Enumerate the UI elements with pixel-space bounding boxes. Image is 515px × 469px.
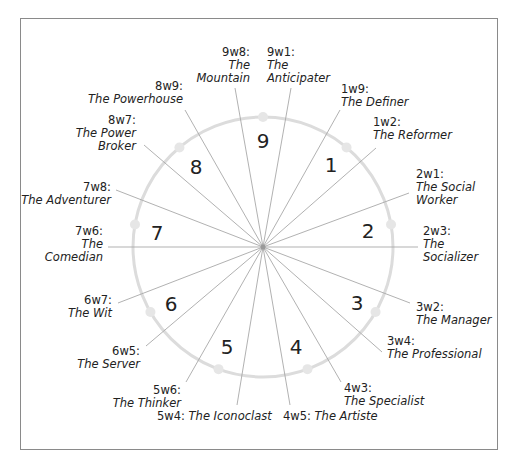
type-number-8: 8	[190, 155, 203, 179]
spoke-6w5	[146, 247, 263, 346]
wing-name: TheMountain	[196, 58, 250, 85]
wing-label-6w7: 6w7: The Wit	[68, 294, 112, 320]
wing-label-2w3: 2w3: TheSocializer	[423, 225, 478, 264]
type-dot-2	[386, 219, 396, 229]
type-number-9: 9	[257, 129, 270, 153]
wing-name: The Iconoclast	[189, 409, 272, 423]
wing-name: TheComedian	[45, 237, 103, 264]
wing-name: The Thinker	[113, 396, 181, 410]
wing-name: TheSocializer	[423, 237, 478, 264]
wing-name: The Definer	[341, 95, 409, 109]
spoke-6w7	[118, 247, 263, 303]
spoke-3w2	[263, 247, 410, 303]
type-number-4: 4	[290, 335, 303, 359]
wing-label-6w5: 6w5: The Server	[77, 345, 140, 371]
type-dot-1	[342, 142, 352, 152]
wing-label-7w8: 7w8: The Adventurer	[21, 181, 111, 207]
wing-name: The Manager	[416, 313, 491, 327]
wing-label-4w5: 4w5: The Artiste	[283, 410, 378, 423]
type-dot-8	[174, 142, 184, 152]
type-number-5: 5	[221, 335, 234, 359]
wing-label-5w6: 5w6: The Thinker	[113, 384, 181, 410]
spoke-1w2	[263, 148, 376, 247]
spoke-2w1	[263, 193, 409, 247]
wing-name: TheAnticipater	[267, 58, 330, 85]
wing-name: The Reformer	[373, 128, 452, 142]
wing-name: The Professional	[387, 347, 482, 361]
type-number-3: 3	[351, 291, 364, 315]
wing-label-8w9: 8w9: The Powerhouse	[88, 80, 183, 106]
type-dot-3	[371, 307, 381, 317]
wing-label-1w2: 1w2: The Reformer	[373, 116, 452, 142]
type-dot-4	[302, 364, 312, 374]
wing-label-9w1: 9w1: TheAnticipater	[267, 46, 330, 85]
wing-name: The Wit	[68, 306, 112, 320]
wing-label-3w4: 3w4: The Professional	[387, 335, 482, 361]
spoke-7w8	[116, 190, 263, 247]
type-dot-5	[214, 364, 224, 374]
wing-name: The Specialist	[344, 394, 424, 408]
wing-label-4w3: 4w3: The Specialist	[344, 382, 424, 408]
wing-label-3w2: 3w2: The Manager	[416, 301, 491, 327]
wing-code: 5w4:	[157, 409, 185, 423]
wing-label-5w4: 5w4: The Iconoclast	[157, 410, 272, 423]
wing-label-1w9: 1w9: The Definer	[341, 83, 409, 109]
wing-label-8w7: 8w7: The PowerBroker	[76, 114, 136, 153]
wing-code: 4w5:	[283, 409, 311, 423]
wing-name: The Powerhouse	[88, 92, 183, 106]
type-number-7: 7	[151, 221, 164, 245]
wing-name: The Artiste	[315, 409, 378, 423]
wing-name: The SocialWorker	[416, 180, 475, 207]
spoke-9w1	[263, 88, 291, 247]
spoke-1w9	[263, 110, 340, 247]
wing-label-2w1: 2w1: The SocialWorker	[416, 168, 475, 207]
wing-name: The Server	[77, 357, 140, 371]
type-dot-6	[145, 307, 155, 317]
wing-label-9w8: 9w8: TheMountain	[196, 46, 250, 85]
type-number-2: 2	[362, 219, 375, 243]
wing-name: The PowerBroker	[76, 126, 136, 153]
wing-name: The Adventurer	[21, 193, 111, 207]
center-point	[261, 245, 266, 250]
wing-label-7w6: 7w6: TheComedian	[45, 225, 103, 264]
type-number-1: 1	[325, 153, 338, 177]
spoke-3w4	[263, 247, 382, 352]
type-dot-7	[130, 219, 140, 229]
type-number-6: 6	[165, 292, 178, 316]
type-dot-9	[258, 112, 268, 122]
